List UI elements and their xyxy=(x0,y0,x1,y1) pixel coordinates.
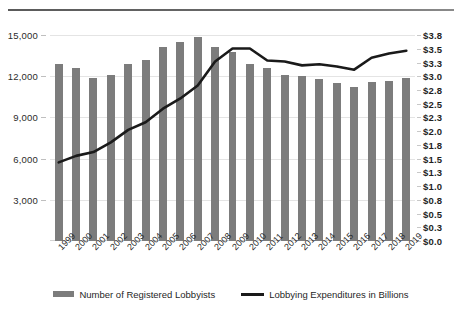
header-divider xyxy=(8,9,454,11)
left-axis-tick-label: 15,000 xyxy=(8,30,38,41)
line-series-expenditures xyxy=(50,35,415,241)
right-axis-tick-mark xyxy=(417,159,421,160)
right-axis-tick-mark xyxy=(417,186,421,187)
left-axis-tick-label: 6,000 xyxy=(13,153,38,164)
right-axis-tick-label: $3.5 xyxy=(423,43,442,54)
lobbying-chart: 3,0006,0009,00012,00015,000 $0.0$0.3$0.5… xyxy=(0,0,462,309)
plot-area xyxy=(50,35,415,241)
right-currency-axis: $0.0$0.3$0.5$0.8$1.0$1.3$1.5$1.8$2.0$2.3… xyxy=(417,35,462,241)
legend-item-lobbyists: Number of Registered Lobbyists xyxy=(53,289,215,300)
right-axis-tick-label: $1.3 xyxy=(423,167,442,178)
right-axis-tick-label: $1.5 xyxy=(423,153,442,164)
right-axis-tick-mark xyxy=(417,131,421,132)
left-axis-tick-label: 3,000 xyxy=(13,194,38,205)
left-axis-tick-mark xyxy=(41,35,46,36)
right-axis-tick-mark xyxy=(417,35,421,36)
chart-legend: Number of Registered Lobbyists Lobbying … xyxy=(0,285,462,303)
right-axis-tick-label: $0.0 xyxy=(423,236,442,247)
right-axis-tick-mark xyxy=(417,145,421,146)
right-axis-tick-mark xyxy=(417,63,421,64)
right-axis-tick-label: $1.0 xyxy=(423,181,442,192)
right-axis-tick-label: $1.8 xyxy=(423,140,442,151)
right-axis-tick-mark xyxy=(417,76,421,77)
right-axis-tick-label: $0.5 xyxy=(423,208,442,219)
left-axis-tick-label: 9,000 xyxy=(13,112,38,123)
right-axis-tick-mark xyxy=(417,104,421,105)
right-axis-tick-label: $0.8 xyxy=(423,194,442,205)
left-axis-tick-mark xyxy=(41,76,46,77)
right-axis-tick-mark xyxy=(417,117,421,118)
right-axis-tick-mark xyxy=(417,200,421,201)
right-axis-tick-label: $2.5 xyxy=(423,98,442,109)
legend-label-expenditures: Lobbying Expenditures in Billions xyxy=(269,289,408,300)
right-axis-tick-mark xyxy=(417,227,421,228)
right-axis-tick-label: $3.0 xyxy=(423,71,442,82)
left-axis-tick-mark xyxy=(41,200,46,201)
bar-swatch-icon xyxy=(53,291,74,297)
left-value-axis: 3,0006,0009,00012,00015,000 xyxy=(0,35,46,241)
year-axis: 1999200020012002200320042005200620072008… xyxy=(50,243,415,283)
right-axis-tick-mark xyxy=(417,214,421,215)
expenditures-polyline xyxy=(59,49,407,163)
legend-label-lobbyists: Number of Registered Lobbyists xyxy=(79,289,215,300)
right-axis-tick-mark xyxy=(417,172,421,173)
left-axis-tick-mark xyxy=(41,117,46,118)
left-axis-tick-label: 12,000 xyxy=(8,71,38,82)
right-axis-tick-label: $2.8 xyxy=(423,84,442,95)
right-axis-tick-label: $3.3 xyxy=(423,57,442,68)
line-swatch-icon xyxy=(241,293,264,296)
right-axis-tick-label: $2.3 xyxy=(423,112,442,123)
right-axis-tick-mark xyxy=(417,90,421,91)
right-axis-tick-label: $0.3 xyxy=(423,222,442,233)
left-axis-tick-mark xyxy=(41,159,46,160)
right-axis-tick-label: $3.8 xyxy=(423,30,442,41)
right-axis-tick-label: $2.0 xyxy=(423,125,442,136)
legend-item-expenditures: Lobbying Expenditures in Billions xyxy=(241,289,408,300)
right-axis-tick-mark xyxy=(417,49,421,50)
